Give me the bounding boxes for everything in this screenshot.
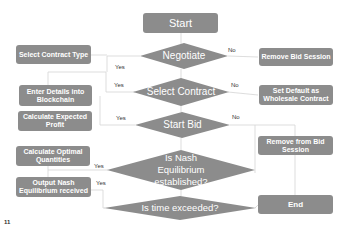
decision-label: Start Bid	[163, 119, 201, 131]
start-node: Start	[143, 13, 218, 33]
decision-label: Negotiate	[163, 50, 206, 62]
label-no: No	[228, 47, 236, 53]
action-remove-bid-session: Remove Bid Session	[259, 48, 333, 66]
decision-label: Is Nash Equilibrium established?	[141, 152, 221, 188]
decision-time-exceeded: Is time exceeded?	[104, 196, 256, 220]
label-yes: Yes	[94, 163, 104, 169]
action-calculate-profit: Calculate Expected Profit	[18, 111, 92, 131]
end-node: End	[258, 195, 333, 214]
action-enter-details: Enter Details into Blockchain	[19, 85, 92, 106]
action-remove-from-bid: Remove from Bid Session	[258, 136, 333, 155]
label-yes: Yes	[114, 82, 124, 88]
decision-label: Is time exceeded?	[141, 202, 218, 214]
decision-negotiate: Negotiate	[140, 43, 228, 69]
label-yes: Yes	[116, 115, 126, 121]
decision-start-bid: Start Bid	[135, 112, 230, 138]
action-calculate-quantities: Calculate Optimal Quantities	[16, 146, 90, 166]
footer-mark: 11	[4, 219, 10, 225]
label-yes: Yes	[96, 180, 106, 186]
action-select-contract-type: Select Contract Type	[16, 45, 91, 64]
label-yes: Yes	[115, 64, 125, 70]
action-set-default: Set Default as Wholesale Contract	[259, 85, 333, 105]
label-no: No	[231, 82, 239, 88]
decision-select-contract: Select Contract	[133, 78, 229, 106]
decision-nash-equilibrium: Is Nash Equilibrium established?	[107, 150, 255, 190]
action-output-nash: Output Nash Equilibrium received	[16, 177, 91, 197]
decision-label: Select Contract	[147, 86, 215, 98]
label-no: No	[232, 114, 240, 120]
